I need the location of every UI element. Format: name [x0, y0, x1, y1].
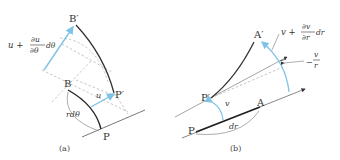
- label-u-plus: u +: [8, 40, 23, 50]
- label-v-over-num: v: [314, 50, 319, 59]
- label-dr-top: dr: [316, 28, 325, 37]
- label-v-plus: v +: [281, 27, 296, 37]
- dashed-line-b: [211, 67, 283, 98]
- label-dv-den: ∂r: [302, 33, 310, 42]
- label-u: u: [96, 91, 101, 100]
- label-p: P: [103, 131, 110, 142]
- leader-v-plus: [272, 34, 279, 50]
- panel-a: B′ B P′ P u + ∂u ∂θ dθ u rdθ (a): [8, 13, 145, 153]
- label-a-prime: A′: [253, 29, 264, 40]
- label-b-prime: B′: [69, 13, 79, 24]
- label-dv-num: ∂v: [302, 22, 311, 31]
- caption-b: (b): [230, 144, 241, 153]
- panel-b: A′ P′ A P v + ∂v ∂r dr − v r v dr (b): [175, 22, 325, 153]
- label-v-over-den: r: [314, 61, 318, 70]
- line-pprime-upper: [175, 57, 287, 117]
- arc-v: [212, 102, 223, 120]
- curve-pprime-aprime: [211, 42, 254, 98]
- label-p-prime-b: P′: [201, 92, 211, 103]
- label-p-b: P: [188, 125, 195, 136]
- leader-v-over-r: [284, 61, 304, 63]
- arc-v-plus: [262, 42, 289, 92]
- base-line-a: [82, 110, 145, 137]
- label-b: B: [64, 78, 71, 89]
- label-dr: dr: [229, 122, 239, 131]
- label-p-prime: P′: [115, 89, 125, 100]
- label-v: v: [225, 99, 230, 108]
- label-minus: −: [306, 58, 313, 67]
- arc-dr: [196, 111, 259, 135]
- label-rdtheta: rdθ: [66, 110, 80, 119]
- label-a: A: [256, 97, 265, 108]
- caption-a: (a): [59, 144, 70, 153]
- curve-bprime-pprime: [76, 25, 114, 93]
- label-du-num: ∂u: [31, 35, 40, 44]
- figure: B′ B P′ P u + ∂u ∂θ dθ u rdθ (a): [0, 0, 340, 160]
- label-du-den: ∂θ: [30, 46, 39, 55]
- label-dtheta: dθ: [46, 41, 56, 50]
- segment-p-a: [196, 107, 260, 132]
